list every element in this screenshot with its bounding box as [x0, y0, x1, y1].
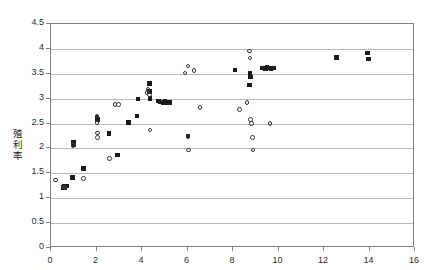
grid-line [51, 99, 413, 100]
data-point-open-circle [250, 135, 255, 140]
data-point-filled-square [136, 97, 141, 102]
x-tick-label: 4 [138, 256, 143, 265]
data-point-open-circle [81, 176, 86, 181]
data-point-open-circle [148, 128, 153, 133]
x-tick-label: 14 [363, 256, 373, 265]
grid-line [51, 198, 413, 199]
x-tick-mark [278, 247, 279, 251]
data-point-filled-square [126, 120, 131, 125]
data-point-filled-square [148, 96, 153, 101]
plot-area [50, 23, 414, 247]
grid-line [51, 49, 413, 50]
data-point-open-circle [146, 87, 151, 92]
data-point-filled-square [365, 51, 370, 56]
grid-line [51, 74, 413, 75]
data-point-open-circle [95, 135, 100, 140]
data-point-filled-square [366, 57, 371, 62]
grid-line [51, 148, 413, 149]
data-point-open-circle [237, 107, 242, 112]
data-point-open-circle [186, 148, 191, 153]
data-point-open-circle [245, 100, 250, 105]
x-tick-mark [96, 247, 97, 251]
data-point-open-circle [268, 121, 273, 126]
data-point-filled-square [233, 68, 238, 73]
data-point-open-circle [198, 105, 203, 110]
data-point-filled-square [107, 131, 112, 136]
data-point-filled-square [115, 153, 120, 158]
data-point-open-circle [63, 185, 68, 190]
data-point-open-circle [53, 178, 58, 183]
x-tick-label: 10 [272, 256, 282, 265]
x-tick-label: 8 [229, 256, 234, 265]
x-tick-mark [323, 247, 324, 251]
x-tick-label: 16 [409, 256, 419, 265]
data-point-open-circle [251, 148, 256, 153]
x-tick-label: 0 [47, 256, 52, 265]
data-point-open-circle [249, 121, 254, 126]
x-tick-label: 12 [318, 256, 328, 265]
x-tick-mark [369, 247, 370, 251]
data-point-open-circle [147, 92, 152, 97]
x-tick-label: 6 [184, 256, 189, 265]
data-point-filled-square [247, 83, 252, 88]
data-point-open-circle [186, 134, 191, 139]
data-point-filled-square [271, 66, 276, 71]
data-point-filled-square [147, 81, 152, 86]
data-point-open-circle [186, 64, 191, 69]
grid-line [51, 173, 413, 174]
grid-line [51, 124, 413, 125]
data-point-open-circle [71, 143, 76, 148]
x-tick-mark [414, 247, 415, 251]
x-tick-mark [141, 247, 142, 251]
x-tick-mark [187, 247, 188, 251]
data-point-open-circle [183, 71, 188, 76]
data-point-open-circle [247, 49, 252, 54]
data-point-filled-square [135, 114, 140, 119]
data-point-open-circle [192, 68, 197, 73]
data-point-open-circle [248, 56, 253, 61]
data-point-open-circle [116, 102, 121, 107]
x-tick-label: 2 [93, 256, 98, 265]
data-point-open-circle [107, 156, 112, 161]
x-tick-mark [232, 247, 233, 251]
x-tick-mark [50, 247, 51, 251]
data-point-filled-square [248, 75, 253, 80]
data-point-filled-square [334, 55, 339, 60]
data-point-filled-square [81, 166, 86, 171]
grid-line [51, 223, 413, 224]
data-point-filled-square [70, 175, 75, 180]
scatter-chart: 殖 利 率 00.511.522.533.544.5 0246810121416 [0, 0, 431, 270]
data-point-filled-square [168, 100, 173, 105]
